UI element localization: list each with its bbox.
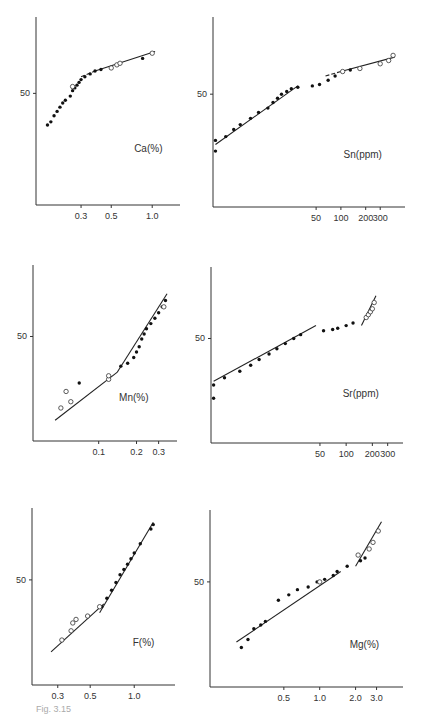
panel-mg: 500.51.02.03.0Mg(%) xyxy=(205,470,422,715)
x-tick-label: 0.5 xyxy=(278,693,291,703)
variable-label: Sr(ppm) xyxy=(343,388,379,399)
axes: 5050100200300 xyxy=(195,267,403,459)
x-tick-label: 1.0 xyxy=(128,691,141,701)
y-tick-label: 50 xyxy=(16,575,26,585)
data-points xyxy=(214,53,396,153)
x-tick-label: 0.3 xyxy=(51,691,64,701)
data-points xyxy=(60,523,155,642)
y-tick-label: 50 xyxy=(194,577,204,587)
x-tick-label: 100 xyxy=(339,449,354,459)
figure-caption: Fig. 3.15 xyxy=(36,704,71,714)
variable-label: F(%) xyxy=(133,637,155,648)
x-tick-label: 1.0 xyxy=(146,211,159,221)
y-tick-label: 50 xyxy=(20,88,30,98)
x-tick-label: 0.1 xyxy=(92,447,105,457)
variable-label: Mg(%) xyxy=(350,639,379,650)
fit-lines xyxy=(236,522,381,642)
axes: 500.30.51.0 xyxy=(16,508,175,701)
x-tick-label: 50 xyxy=(311,213,321,223)
x-tick-label: 300 xyxy=(380,449,395,459)
x-tick-label: 0.5 xyxy=(84,691,97,701)
x-tick-label: 100 xyxy=(333,213,348,223)
variable-label: Ca(%) xyxy=(134,143,162,154)
y-tick-label: 50 xyxy=(195,333,205,343)
variable-label: Sn(ppm) xyxy=(344,149,382,160)
data-points xyxy=(59,299,167,410)
data-points xyxy=(240,529,381,649)
x-tick-label: 300 xyxy=(373,213,388,223)
axes: 500.30.51.0 xyxy=(20,17,180,221)
y-tick-label: 50 xyxy=(197,89,207,99)
panel-sn: 5050100200300Sn(ppm) xyxy=(205,0,422,235)
panel-sr: 5050100200300Sr(ppm) xyxy=(205,240,422,470)
x-tick-label: 0.5 xyxy=(105,211,118,221)
fit-lines xyxy=(215,57,394,144)
x-tick-label: 1.0 xyxy=(313,693,326,703)
x-tick-label: 0.2 xyxy=(130,447,143,457)
variable-label: Mn(%) xyxy=(119,392,148,403)
panel-f: 500.30.51.0F(%) xyxy=(0,470,205,715)
data-points xyxy=(46,51,155,127)
panel-ca: 500.30.51.0Ca(%) xyxy=(0,0,205,235)
x-tick-label: 0.3 xyxy=(75,211,88,221)
x-tick-label: 200 xyxy=(365,449,380,459)
panel-mn: 500.10.20.3Mn(%) xyxy=(0,240,205,470)
x-tick-label: 2.0 xyxy=(349,693,362,703)
axes: 500.10.20.3 xyxy=(17,265,177,457)
x-tick-label: 0.3 xyxy=(152,447,165,457)
fit-lines xyxy=(51,522,153,652)
axes: 5050100200300 xyxy=(197,17,405,223)
x-tick-label: 50 xyxy=(315,449,325,459)
x-tick-label: 3.0 xyxy=(370,693,383,703)
data-points xyxy=(212,300,376,400)
x-tick-label: 200 xyxy=(358,213,373,223)
y-tick-label: 50 xyxy=(17,331,27,341)
